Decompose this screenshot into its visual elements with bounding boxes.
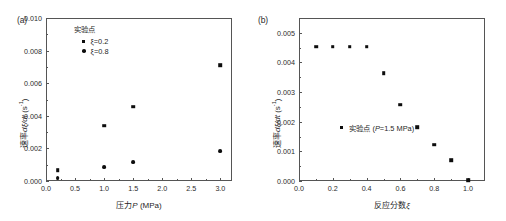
y-tick	[299, 181, 302, 182]
panel-b-legend: 实验点 (P=1.5 MPa)	[340, 122, 414, 133]
data-point	[219, 63, 223, 67]
x-title-unit-a: (MPa)	[138, 201, 162, 210]
x-tick-minor	[61, 179, 62, 181]
y-tick	[46, 18, 49, 19]
x-tick-minor	[316, 179, 317, 181]
y-tick-minor	[299, 107, 301, 108]
x-tick-label: 0.0	[41, 184, 51, 193]
y-tick	[299, 33, 302, 34]
x-tick-minor	[148, 179, 149, 181]
y-tick-minor	[46, 67, 48, 68]
y-tick	[46, 116, 49, 117]
panel-b-x-axis-title: 反应分数ξ	[374, 199, 410, 210]
legend-title-a: 实验点	[74, 25, 109, 34]
y-tick-minor	[46, 100, 48, 101]
x-tick-a-5	[191, 178, 192, 181]
y-tick-label: 0.002	[14, 144, 42, 153]
data-point	[449, 158, 453, 162]
data-point	[416, 126, 420, 130]
x-tick-label: 1.0	[99, 184, 109, 193]
y-tick-minor	[299, 166, 301, 167]
y-tick	[299, 122, 302, 123]
y-tick	[46, 181, 49, 182]
x-tick-label: 2.5	[186, 184, 196, 193]
x-tick-a-2	[104, 178, 105, 181]
y-tick	[46, 51, 49, 52]
x-tick-minor	[90, 179, 91, 181]
y-title-sup-b: -1	[271, 101, 277, 106]
y-title-close-a: )	[20, 99, 29, 102]
data-point	[466, 179, 470, 183]
legend-marker-square-icon	[82, 40, 85, 43]
x-tick-label: 0.2	[328, 184, 338, 193]
y-tick-label: 0.005	[267, 28, 295, 37]
data-point	[399, 103, 403, 107]
legend-label-experimental-points: 实验点 (P=1.5 MPa)	[349, 122, 414, 133]
y-tick-minor	[46, 132, 48, 133]
x-tick-b-1	[333, 178, 334, 181]
y-tick	[46, 83, 49, 84]
panel-a-x-axis-title: 压力P (MPa)	[116, 199, 161, 210]
figure-container: (a) 速率dξ/dt (s-1) 压力P (MPa) 实验点 ξ=0.2 ξ=…	[0, 0, 506, 221]
x-tick-label: 0.6	[395, 184, 405, 193]
x-tick-b-3	[400, 178, 401, 181]
legend-item-xi-08: ξ=0.8	[74, 46, 109, 56]
legend-label-xi-08: ξ=0.8	[91, 47, 109, 56]
data-point	[131, 160, 135, 164]
x-tick-minor	[384, 179, 385, 181]
x-tick-a-1	[75, 178, 76, 181]
y-tick	[46, 148, 49, 149]
y-tick	[299, 92, 302, 93]
x-title-italic-b: ξ	[406, 201, 410, 210]
x-title-text-a: 压力	[116, 201, 132, 210]
data-point	[56, 169, 60, 173]
y-tick-label: 0.000	[14, 177, 42, 186]
y-tick-minor	[299, 77, 301, 78]
y-title-text-b: 速率	[273, 132, 282, 148]
x-tick-label: 0.0	[294, 184, 304, 193]
legend-prefix-b: 实验点 (	[349, 124, 375, 133]
x-tick-a-3	[133, 178, 134, 181]
panel-a: (a) 速率dξ/dt (s-1) 压力P (MPa) 实验点 ξ=0.2 ξ=…	[0, 0, 253, 221]
y-tick-label: 0.010	[14, 14, 42, 23]
y-tick-minor	[299, 48, 301, 49]
data-point	[218, 149, 222, 153]
legend-item-xi-02: ξ=0.2	[74, 36, 109, 46]
y-tick-label: 0.004	[267, 58, 295, 67]
x-tick-label: 1.5	[128, 184, 138, 193]
data-point	[348, 45, 352, 49]
x-tick-minor	[206, 179, 207, 181]
x-tick-b-2	[367, 178, 368, 181]
data-point	[102, 124, 106, 128]
y-tick-label: 0.000	[267, 177, 295, 186]
y-tick-minor	[46, 165, 48, 166]
y-title-unit-b: (s	[273, 106, 282, 115]
y-title-sup-a: -1	[18, 101, 24, 106]
y-title-close-b: )	[273, 99, 282, 102]
y-tick	[299, 62, 302, 63]
x-tick-label: 0.5	[70, 184, 80, 193]
x-tick-label: 0.8	[429, 184, 439, 193]
legend-marker-circle-icon	[82, 49, 86, 53]
data-point	[432, 143, 436, 147]
x-tick-b-4	[434, 178, 435, 181]
panel-b: (b) 速率dξ/dt (s-1) 反应分数ξ 实验点 (P=1.5 MPa) …	[253, 0, 506, 221]
data-point	[56, 176, 60, 180]
x-tick-label: 0.4	[362, 184, 372, 193]
data-point	[382, 72, 386, 76]
y-tick-minor	[46, 34, 48, 35]
y-tick-label: 0.004	[14, 111, 42, 120]
x-tick-a-4	[162, 178, 163, 181]
data-point	[102, 165, 106, 169]
data-point	[365, 45, 369, 49]
x-tick-label: 3.0	[215, 184, 225, 193]
x-tick-label: 2.0	[157, 184, 167, 193]
x-tick-a-6	[220, 178, 221, 181]
x-tick-minor	[350, 179, 351, 181]
legend-suffix-b: =1.5 MPa)	[380, 124, 414, 133]
y-tick-label: 0.001	[267, 147, 295, 156]
panel-a-legend: 实验点 ξ=0.2 ξ=0.8	[74, 25, 109, 56]
x-tick-label: 1.0	[463, 184, 473, 193]
x-tick-minor	[417, 179, 418, 181]
x-tick-minor	[177, 179, 178, 181]
